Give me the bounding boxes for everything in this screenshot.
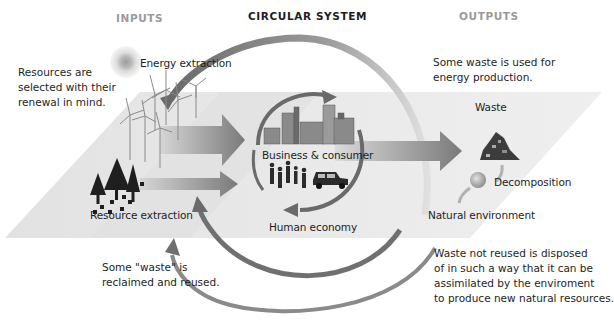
header-outputs: OUTPUTS	[459, 10, 519, 22]
label-natural-environment: Natural environment	[428, 208, 535, 222]
label-human-economy: Human economy	[269, 220, 357, 234]
header-circular-system: CIRCULAR SYSTEM	[248, 10, 367, 22]
label-resource-extraction: Resource extraction	[90, 208, 193, 222]
label-business-consumer: Business & consumer	[262, 148, 373, 162]
note-waste-energy: Some waste is used for energy production…	[433, 55, 555, 85]
note-waste-reclaimed: Some "waste" is reclaimed and reused.	[102, 260, 220, 290]
label-decomposition: Decomposition	[494, 175, 571, 189]
header-inputs: INPUTS	[116, 12, 163, 24]
note-resources-selected: Resources are selected with their renewa…	[18, 65, 116, 110]
note-waste-disposed: Waste not reused is disposed of in such …	[434, 246, 614, 306]
decomposition-icon	[470, 172, 486, 188]
label-waste: Waste	[475, 100, 507, 114]
label-energy-extraction: Energy extraction	[140, 56, 232, 70]
outer-arc-bottom-head	[165, 238, 180, 256]
